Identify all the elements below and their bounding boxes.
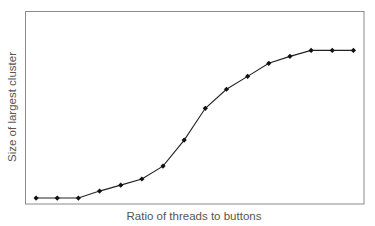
data-point-marker [245, 74, 250, 79]
data-point-marker [76, 195, 81, 200]
data-point-marker [287, 54, 292, 59]
data-point-marker [309, 48, 314, 53]
data-point-marker [330, 48, 335, 53]
data-point-marker [33, 195, 38, 200]
data-line [36, 50, 353, 198]
data-point-marker [118, 183, 123, 188]
data-point-marker [266, 61, 271, 66]
data-point-marker [97, 189, 102, 194]
plot-frame [26, 12, 365, 205]
data-point-marker [55, 195, 60, 200]
x-axis-label: Ratio of threads to buttons [127, 210, 262, 222]
data-point-marker [139, 176, 144, 181]
y-axis-label: Size of largest cluster [6, 52, 18, 162]
line-chart: Ratio of threads to buttons Size of larg… [0, 0, 375, 226]
data-point-marker [351, 48, 356, 53]
